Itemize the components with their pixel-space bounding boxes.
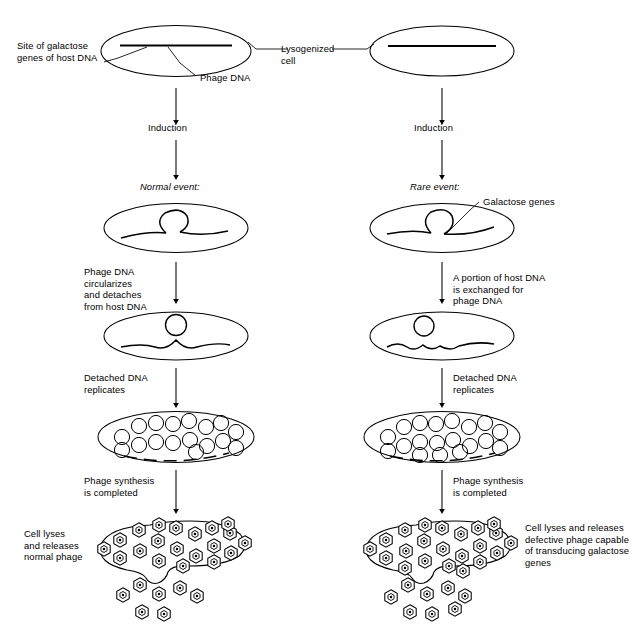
stage3-left-cell bbox=[104, 312, 248, 360]
label-induction-left: Induction bbox=[148, 122, 208, 134]
left-released-phages bbox=[117, 578, 203, 621]
left-phage-cluster bbox=[98, 517, 251, 573]
label-galactose-genes: Galactose genes bbox=[483, 196, 579, 208]
top-left-cell bbox=[101, 26, 251, 77]
label-portion-exchanged: A portion of host DNA is exchanged for p… bbox=[453, 272, 573, 307]
stage4-right-cell bbox=[364, 412, 520, 463]
stage2-right-cell bbox=[370, 204, 514, 253]
stage2-left-cell bbox=[104, 204, 248, 253]
label-normal-event: Normal event: bbox=[140, 181, 220, 193]
label-rare-event: Rare event: bbox=[410, 181, 480, 193]
top-right-cell bbox=[370, 26, 514, 76]
label-phage-dna-circularizes: Phage DNA circularizes and detaches from… bbox=[84, 266, 168, 312]
label-lysogenized-cell: Lysogenized cell bbox=[281, 43, 337, 66]
label-detached-replicates-right: Detached DNA replicates bbox=[453, 372, 539, 395]
label-phage-dna: Phage DNA bbox=[200, 72, 262, 84]
stage3-right-cell bbox=[370, 312, 514, 360]
stage4-left-cell bbox=[98, 412, 254, 463]
right-phage-cluster bbox=[364, 517, 517, 578]
label-cell-lyses-defective: Cell lyses and releases defective phage … bbox=[525, 522, 641, 568]
diagram-root: Site of galactose genes of host DNA Phag… bbox=[0, 0, 641, 629]
label-phage-synthesis-right: Phage synthesis is completed bbox=[453, 475, 541, 498]
label-cell-lyses-normal: Cell lyses and releases normal phage bbox=[24, 528, 98, 563]
label-site-of-galactose-genes: Site of galactose genes of host DNA bbox=[17, 40, 109, 63]
galactose-genes-leader bbox=[446, 202, 479, 234]
label-detached-replicates-left: Detached DNA replicates bbox=[84, 372, 170, 395]
label-induction-right: Induction bbox=[414, 122, 474, 134]
right-released-phages bbox=[385, 578, 471, 621]
label-phage-synthesis-left: Phage synthesis is completed bbox=[84, 475, 172, 498]
